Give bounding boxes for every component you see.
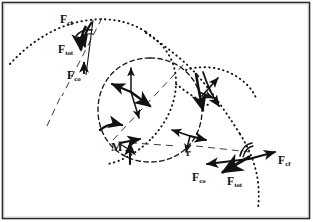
force-diagram-figure: Fcf Ftot Fco M r Fco Ftot Fcf: [0, 0, 313, 222]
label-f-co-top: Fco: [67, 66, 81, 83]
label-f-co-bottom: Fco: [192, 168, 206, 185]
diagram-canvas: [0, 0, 313, 222]
label-f-tot-top: Ftot: [58, 40, 73, 57]
figure-border: [3, 3, 310, 219]
label-f-cf-bottom: Fcf: [278, 151, 290, 168]
label-mass-m: M: [111, 138, 123, 155]
label-f-tot-bottom: Ftot: [227, 172, 242, 189]
label-f-cf-top: Fcf: [60, 10, 72, 27]
label-radius-r: r: [186, 143, 191, 160]
